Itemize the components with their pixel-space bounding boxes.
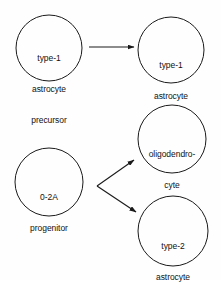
node-circle-type-2-astrocyte[interactable] bbox=[138, 196, 208, 266]
node-circle-oligodendrocyte[interactable] bbox=[138, 105, 206, 173]
node-circle-type-1-astrocyte[interactable] bbox=[138, 17, 204, 83]
node-circle-o-2a-progenitor[interactable] bbox=[15, 148, 83, 216]
arrow-progenitor-to-oligodendrocyte bbox=[97, 160, 134, 186]
node-circle-type-1-astrocyte-precursor[interactable] bbox=[16, 15, 82, 81]
arrow-progenitor-to-type-2-astrocyte bbox=[97, 186, 136, 212]
